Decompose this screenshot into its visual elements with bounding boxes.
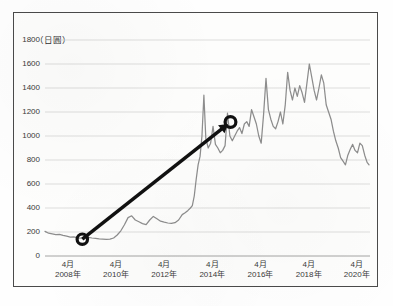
y-axis-tick-label: 1200 [12,107,40,116]
x-axis-tick-label: 4月2012年 [141,260,187,280]
y-axis-tick-label: 400 [12,203,40,212]
y-axis-tick-label: 200 [12,227,40,236]
x-tick-month: 4月 [189,260,235,270]
x-tick-month: 4月 [93,260,139,270]
x-tick-year: 2010年 [93,270,139,280]
x-tick-year: 2016年 [237,270,283,280]
data-series-group [45,64,369,239]
x-tick-month: 4月 [286,260,332,270]
x-tick-year: 2012年 [141,270,187,280]
x-tick-month: 4月 [237,260,283,270]
y-axis-tick-label: 600 [12,179,40,188]
x-tick-year: 2020年 [334,270,380,280]
x-axis-tick-label: 4月2008年 [45,260,91,280]
y-axis-tick-label: 1800 [12,35,40,44]
x-axis-tick-label: 4月2014年 [189,260,235,280]
x-axis-tick-label: 4月2016年 [237,260,283,280]
y-axis-tick-label: 1000 [12,131,40,140]
x-axis-tick-label: 4月2020年 [334,260,380,280]
y-axis-tick-label: 800 [12,155,40,164]
x-tick-month: 4月 [45,260,91,270]
x-tick-year: 2014年 [189,270,235,280]
x-tick-year: 2008年 [45,270,91,280]
x-axis-tick-label: 4月2010年 [93,260,139,280]
chart-page: （日圓） 180016001400120010008006004002000 4… [0,0,393,306]
y-axis-tick-label: 1600 [12,59,40,68]
series-line [45,64,369,239]
y-axis-tick-label: 0 [12,251,40,260]
x-tick-month: 4月 [334,260,380,270]
x-tick-year: 2018年 [286,270,332,280]
y-axis-tick-label: 1400 [12,83,40,92]
x-tick-month: 4月 [141,260,187,270]
x-axis-tick-label: 4月2018年 [286,260,332,280]
gridlines-group [45,40,370,256]
